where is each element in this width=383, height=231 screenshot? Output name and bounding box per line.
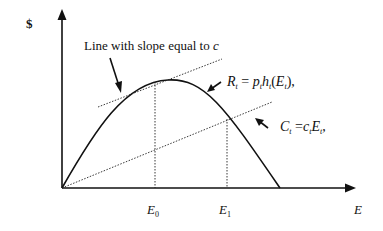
e1-tick-label: E1 — [218, 202, 231, 219]
y-axis-label: $ — [26, 16, 33, 31]
revenue-cost-diagram: $ Line with slope equal to c Rt = ptht(E… — [0, 0, 383, 231]
y-axis-arrow-icon — [58, 9, 67, 20]
x-axis-arrow-icon — [345, 184, 356, 193]
cost-line — [62, 102, 272, 188]
cost-pointer-arrow-icon — [255, 118, 268, 128]
revenue-pointer-arrow-icon — [207, 82, 221, 92]
revenue-curve — [62, 80, 280, 188]
x-axis-label: E — [353, 202, 362, 217]
cost-equation: Ct =ctEt, — [280, 119, 326, 136]
tangent-label: Line with slope equal to c — [84, 38, 219, 53]
e0-tick-label: E0 — [146, 202, 159, 219]
revenue-equation: Rt = ptht(Et), — [226, 74, 295, 91]
tangent-pointer-arrow-icon — [110, 58, 122, 93]
